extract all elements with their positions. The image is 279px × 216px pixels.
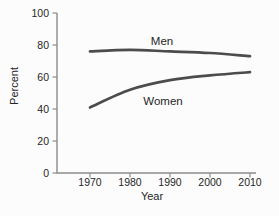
series-line-men <box>90 50 250 56</box>
x-tick-label: 1980 <box>118 176 142 188</box>
y-tick-label: 40 <box>37 103 49 115</box>
y-tick-label: 20 <box>37 135 49 147</box>
x-tick-label: 2000 <box>198 176 222 188</box>
series-label-women: Women <box>143 95 182 107</box>
x-tick-label: 2010 <box>238 176 262 188</box>
y-tick-label: 60 <box>37 71 49 83</box>
y-tick-label: 0 <box>43 167 49 179</box>
series-label-men: Men <box>151 35 173 47</box>
line-chart-figure: 02040608010019701980199020002010 Men Wom… <box>0 0 279 216</box>
chart-canvas: 02040608010019701980199020002010 Men Wom… <box>0 0 279 216</box>
x-axis-title: Year <box>141 190 164 202</box>
y-tick-label: 100 <box>31 7 49 19</box>
x-tick-label: 1970 <box>78 176 102 188</box>
y-axis-title: Percent <box>8 67 20 105</box>
y-tick-label: 80 <box>37 39 49 51</box>
x-tick-label: 1990 <box>158 176 182 188</box>
